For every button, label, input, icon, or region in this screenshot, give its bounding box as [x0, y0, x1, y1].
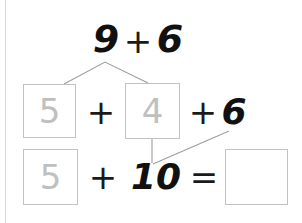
sum-box-left-value: 5 [40, 160, 62, 194]
expression-second-addend: 6 [155, 18, 185, 60]
sum-answer-box[interactable] [225, 149, 288, 205]
decomposition-plus-sign-2: + [186, 94, 220, 130]
sum-ten-value: 10 [130, 157, 182, 197]
sum-plus-sign: + [86, 159, 120, 195]
number-bond-lines [64, 62, 148, 84]
sum-equals-sign: = [185, 159, 223, 195]
decomposition-box-left[interactable]: 5 [23, 84, 76, 138]
expression-first-addend: 9 [90, 18, 122, 60]
page-margin-rule [5, 0, 6, 223]
decomposition-trailing-addend: 6 [219, 92, 249, 132]
decomposition-box-right[interactable]: 4 [125, 83, 180, 139]
worksheet-canvas: 9 + 6 5 + 4 + 6 5 + 10 = [0, 0, 302, 223]
sum-box-left[interactable]: 5 [23, 149, 78, 205]
expression-plus-sign: + [122, 22, 154, 60]
decomposition-plus-sign-1: + [84, 94, 118, 130]
decomposition-box-left-value: 5 [39, 94, 61, 128]
decomposition-box-right-value: 4 [142, 94, 164, 128]
